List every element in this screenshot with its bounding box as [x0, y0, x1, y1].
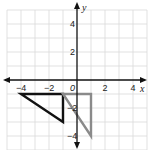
x-tick-label: 4 — [131, 83, 136, 93]
y-tick-label: 4 — [70, 19, 75, 29]
x-tick-label: 0 — [70, 83, 75, 93]
y-axis-top-arrow-icon — [74, 2, 80, 9]
y-tick-label: −2 — [67, 103, 77, 113]
x-tick-label: 2 — [103, 83, 108, 93]
x-tick-label: −2 — [44, 83, 54, 93]
y-tick-label: −4 — [67, 131, 77, 141]
y-tick-label: 2 — [70, 47, 75, 57]
coordinate-plane: x y −4−202442−2−4 — [0, 0, 148, 150]
y-axis-label: y — [81, 2, 87, 13]
x-axis-left-arrow-icon — [3, 77, 10, 83]
x-tick-label: −4 — [16, 83, 26, 93]
y-axis-bottom-arrow-icon — [74, 142, 80, 149]
shapes — [21, 94, 91, 136]
x-axis-label: x — [139, 83, 145, 94]
